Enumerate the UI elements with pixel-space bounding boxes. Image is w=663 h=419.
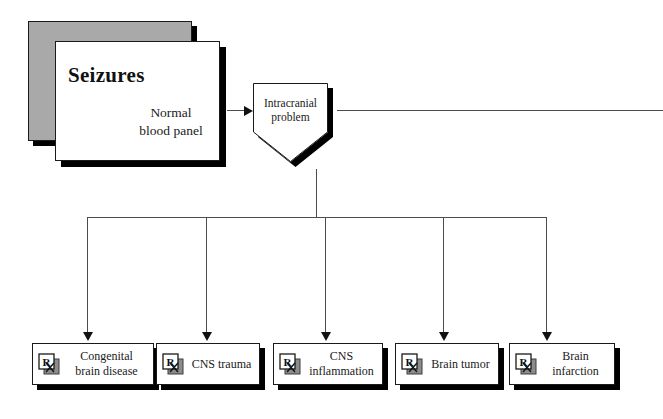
arrowhead-to-decision (244, 106, 253, 116)
outcome-box-5[interactable]: R Brain infarction (509, 343, 615, 385)
card-subtitle: Normal blood panel (128, 104, 214, 140)
rx-prescription-icon: R (162, 353, 184, 375)
connector-decision-right (337, 110, 663, 111)
svg-text:R: R (167, 356, 176, 368)
rx-prescription-icon: R (279, 353, 301, 375)
branch-line-4 (443, 217, 444, 333)
outcome-box-2[interactable]: R CNS trauma (156, 343, 260, 385)
outcome-box-3[interactable]: R CNS inflammation (273, 343, 383, 385)
connector-decision-down (316, 169, 317, 218)
branch-line-2 (206, 217, 207, 333)
rx-prescription-icon: R (401, 353, 423, 375)
outcome-label-4: Brain tumor (423, 357, 498, 372)
page-title: Seizures (68, 63, 145, 88)
svg-text:R: R (520, 356, 529, 368)
svg-text:R: R (43, 356, 52, 368)
outcome-label-2: CNS trauma (184, 357, 259, 372)
outcome-label-5: Brain infarction (537, 349, 614, 379)
connector-card-to-decision (227, 110, 245, 111)
arrowhead-branch-2 (202, 332, 212, 341)
arrowhead-branch-3 (321, 332, 331, 341)
rx-prescription-icon: R (515, 353, 537, 375)
svg-text:R: R (284, 356, 293, 368)
arrowhead-branch-5 (542, 332, 552, 341)
diagram-canvas: Seizures Normal blood panel Intracranial… (0, 0, 663, 419)
outcome-label-3: CNS inflammation (301, 349, 382, 379)
branch-line-5 (546, 217, 547, 333)
rx-prescription-icon: R (38, 353, 60, 375)
branch-line-3 (325, 217, 326, 333)
front-card (55, 41, 220, 161)
decision-node-label: Intracranial problem (253, 96, 328, 125)
arrowhead-branch-1 (83, 332, 93, 341)
arrowhead-branch-4 (439, 332, 449, 341)
outcome-box-1[interactable]: R Congenital brain disease (32, 343, 154, 385)
decision-node: Intracranial problem (253, 83, 337, 169)
branch-line-1 (87, 217, 88, 333)
distribution-bus (87, 217, 547, 218)
outcome-box-4[interactable]: R Brain tumor (395, 343, 499, 385)
outcome-label-1: Congenital brain disease (60, 349, 153, 379)
svg-text:R: R (406, 356, 415, 368)
